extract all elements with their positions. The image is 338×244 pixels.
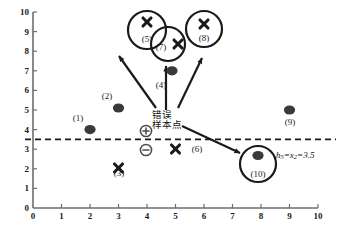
point-label-2: (2)	[102, 92, 113, 101]
y-tick-label-8: 8	[25, 47, 30, 56]
point-label-9: (9)	[285, 118, 296, 127]
y-tick-label-6: 6	[25, 86, 30, 95]
y-tick-label-1: 1	[25, 184, 30, 193]
point-label-1: (1)	[73, 114, 84, 123]
y-tick-label-5: 5	[25, 106, 30, 115]
y-tick-label-4: 4	[25, 125, 30, 134]
cross-point-8	[200, 20, 208, 28]
x-tick-label-5: 5	[173, 212, 178, 221]
dot-point-4	[166, 66, 177, 75]
cross-point-6	[172, 145, 180, 153]
point-label-5: (5)	[142, 35, 153, 44]
x-tick-label-0: 0	[31, 212, 36, 221]
dot-point-9	[284, 105, 295, 114]
x-tick-label-10: 10	[314, 212, 323, 221]
y-tick-label-9: 9	[25, 27, 30, 36]
point-label-10: (10)	[251, 170, 266, 179]
x-tick-label-6: 6	[202, 212, 207, 221]
y-tick-label-10: 10	[20, 8, 29, 17]
x-tick-label-9: 9	[287, 212, 292, 221]
misclassified-annotation-line2: 样本点	[152, 120, 182, 130]
threshold-mid: =x	[284, 150, 294, 160]
point-label-3: (3)	[114, 169, 125, 178]
plus-sign-marker	[140, 125, 151, 136]
threshold-equation-label: h5=x2=3.5	[276, 151, 314, 161]
dot-point-10	[252, 151, 263, 160]
dot-point-1	[84, 125, 95, 134]
point-label-7: (7)	[156, 43, 167, 52]
x-tick-label-7: 7	[230, 212, 235, 221]
annotation-arrows	[119, 56, 240, 153]
minus-sign-marker	[140, 144, 151, 155]
threshold-value: =3.5	[297, 150, 314, 160]
x-tick-label-4: 4	[145, 212, 150, 221]
dot-point-2	[113, 103, 124, 112]
cross-point-7	[174, 40, 182, 48]
y-tick-label-7: 7	[25, 66, 30, 75]
x-tick-label-3: 3	[116, 212, 121, 221]
x-tick-label-1: 1	[59, 212, 64, 221]
y-tick-label-2: 2	[25, 164, 30, 173]
y-tick-label-0: 0	[25, 204, 30, 213]
sign-markers	[140, 125, 151, 155]
x-tick-label-8: 8	[259, 212, 264, 221]
y-tick-label-3: 3	[25, 145, 30, 154]
x-tick-label-2: 2	[88, 212, 93, 221]
misclassified-annotation: 错误 样本点	[152, 110, 182, 131]
point-label-4: (4)	[156, 81, 167, 90]
point-label-6: (6)	[192, 145, 203, 154]
point-label-8: (8)	[199, 34, 210, 43]
scatter-plot-figure: 10 9 8 7 6 5 4 3 2 1 0 0 1 2 3 4 5 6 7 8…	[0, 0, 338, 244]
cross-point-5	[143, 18, 151, 26]
